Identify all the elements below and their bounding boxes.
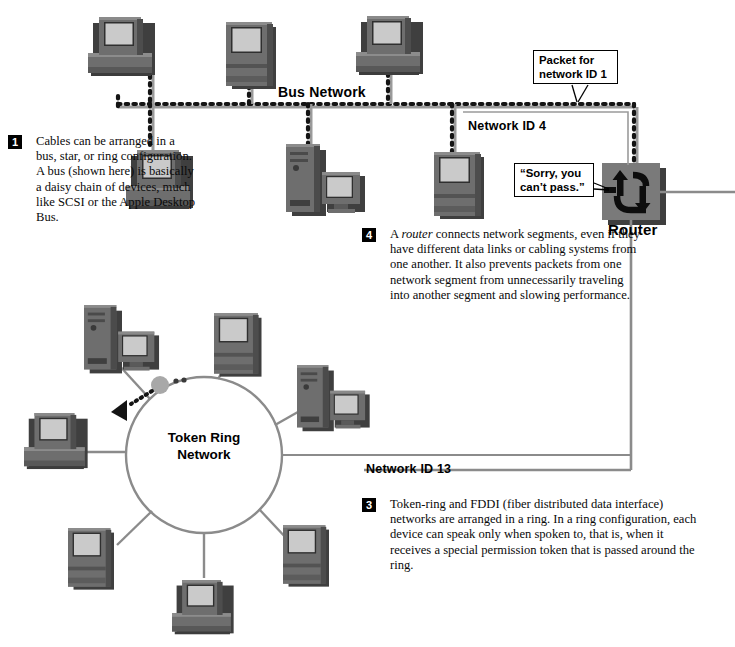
network-diagram-page: Bus Network Network ID 4 Network ID 13 R…: [0, 0, 735, 647]
note-3: 3 Token-ring and FDDI (fiber distributed…: [362, 497, 707, 573]
network-id-4-label: Network ID 4: [468, 119, 546, 133]
note-1-number: 1: [8, 135, 22, 149]
packet-callout: Packet for network ID 1: [533, 50, 618, 84]
bus-network-label: Bus Network: [278, 84, 366, 100]
note-4-text: A router connects network segments, even…: [390, 227, 640, 303]
bus-device-bottom-2: [286, 144, 365, 216]
bus-device-top-1: [88, 17, 155, 76]
note-4-emphasis: router: [402, 227, 433, 241]
ring-device-5: [68, 528, 114, 590]
network-id-13-label: Network ID 13: [366, 462, 451, 476]
ring-device-6: [172, 580, 234, 634]
packet-callout-leader: [572, 85, 588, 102]
ring-device-4: [24, 413, 88, 469]
note-3-text: Token-ring and FDDI (fiber distributed d…: [390, 497, 702, 573]
token-ring-network-label: Token Ring Network: [140, 429, 268, 463]
router-node[interactable]: [364, 163, 735, 470]
sorry-callout: “Sorry, you can’t pass.”: [514, 163, 594, 197]
ring-device-3: [297, 365, 370, 431]
ring-device-2: [214, 313, 262, 377]
note-4-number: 4: [362, 228, 376, 242]
note-3-number: 3: [362, 498, 376, 512]
bus-device-top-3: [356, 16, 423, 75]
note-1: 1 Cables can be arranged in a bus, star,…: [8, 134, 208, 225]
bus-device-bottom-3: [434, 152, 484, 219]
note-4-text-before: A: [390, 227, 402, 241]
ring-device-1: [84, 305, 159, 373]
note-4: 4 A router connects network segments, ev…: [362, 227, 652, 303]
note-1-text: Cables can be arranged in a bus, star, o…: [36, 134, 196, 225]
ring-device-7: [283, 525, 329, 587]
bus-device-top-2: [226, 22, 276, 89]
